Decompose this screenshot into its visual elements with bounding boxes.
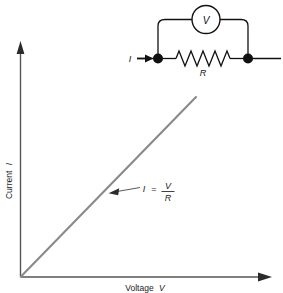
x-axis-label-text: Voltage — [125, 283, 154, 293]
formula-equals-sign: = — [151, 184, 156, 194]
formula-lhs-symbol: I — [143, 184, 146, 194]
formula-denominator: R — [165, 193, 172, 203]
figure-container: I = V R Current I Voltage V — [0, 0, 283, 293]
y-axis-label: Current I — [4, 162, 14, 199]
current-arrowhead — [145, 54, 154, 62]
circuit-node-left — [153, 54, 163, 64]
voltmeter-branch-right-wire — [220, 20, 248, 59]
y-axis-label-text: Current — [4, 170, 14, 199]
resistor-zigzag — [176, 51, 230, 66]
x-axis-label: Voltage V — [125, 283, 166, 293]
axis-labels-group: Current I Voltage V — [4, 162, 166, 293]
circuit-diagram-group: V I R — [129, 6, 281, 79]
current-label: I — [129, 54, 132, 64]
ohms-law-figure: I = V R Current I Voltage V — [0, 0, 283, 293]
annotation-arrowhead — [109, 188, 120, 195]
axes-group — [17, 41, 272, 281]
y-axis-label-symbol: I — [4, 162, 14, 165]
annotation-leader-line — [117, 188, 140, 192]
annotation-group: I = V R — [109, 181, 175, 203]
x-axis-arrowhead — [258, 273, 272, 282]
y-axis-arrowhead — [17, 41, 25, 54]
circuit-node-right — [243, 54, 253, 64]
formula-numerator: V — [165, 181, 172, 191]
voltmeter-branch-left-wire — [158, 20, 192, 59]
x-axis-label-symbol: V — [159, 283, 166, 293]
resistor-label: R — [200, 68, 207, 78]
